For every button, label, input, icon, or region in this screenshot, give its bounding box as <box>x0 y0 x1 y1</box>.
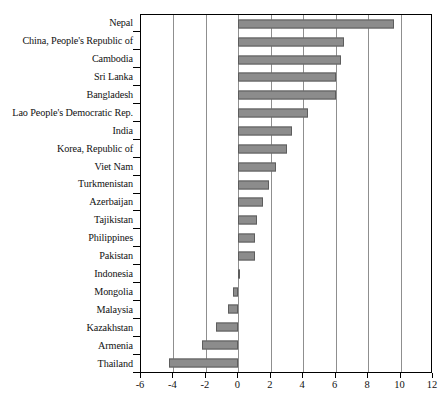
category-label: Korea, Republic of <box>0 140 137 158</box>
category-tick <box>133 86 140 104</box>
plot-area <box>140 14 432 373</box>
bar-row <box>141 193 431 211</box>
value-tick <box>172 373 173 378</box>
bar-row <box>141 336 431 354</box>
category-tick <box>133 68 140 86</box>
category-tick <box>133 104 140 122</box>
value-tick-label: 12 <box>427 379 438 390</box>
bars-layer <box>141 15 431 372</box>
category-label: Pakistan <box>0 247 137 265</box>
clipped-title-remnant <box>95 0 225 3</box>
bar-row <box>141 15 431 33</box>
bar <box>238 162 275 171</box>
value-tick <box>302 373 303 378</box>
category-label: Armenia <box>0 337 137 355</box>
value-tick-label: 4 <box>300 379 305 390</box>
bar <box>238 55 341 64</box>
value-tick-label: 6 <box>332 379 337 390</box>
bar-row <box>141 283 431 301</box>
category-tick <box>133 247 140 265</box>
value-tick-label: 0 <box>235 379 240 390</box>
bar-row <box>141 140 431 158</box>
category-tick-marks <box>133 14 140 373</box>
value-tick <box>237 373 238 378</box>
category-tick <box>133 50 140 68</box>
category-tick <box>133 14 140 32</box>
bar-row <box>141 158 431 176</box>
category-label: Philippines <box>0 229 137 247</box>
bar-row <box>141 51 431 69</box>
category-tick <box>133 176 140 194</box>
bar-row <box>141 176 431 194</box>
bar <box>238 198 263 207</box>
category-tick <box>133 265 140 283</box>
value-tick <box>205 373 206 378</box>
bar <box>228 305 239 314</box>
value-tick <box>335 373 336 378</box>
bar-row <box>141 229 431 247</box>
category-label: Azerbaijan <box>0 194 137 212</box>
category-label: Mongolia <box>0 283 137 301</box>
bar <box>238 73 335 82</box>
category-label: Cambodia <box>0 50 137 68</box>
bar-row <box>141 318 431 336</box>
value-tick <box>367 373 368 378</box>
category-label: Viet Nam <box>0 158 137 176</box>
category-axis-labels: NepalChina, People's Republic ofCambodia… <box>0 14 137 373</box>
bar <box>238 37 343 46</box>
category-label: Lao People's Democratic Rep. <box>0 104 137 122</box>
bar <box>202 341 239 350</box>
bar-row <box>141 265 431 283</box>
category-tick <box>133 337 140 355</box>
bar-row <box>141 211 431 229</box>
bar <box>238 251 255 260</box>
value-tick-label: 2 <box>267 379 272 390</box>
bar <box>238 180 269 189</box>
category-tick <box>133 319 140 337</box>
bar <box>238 109 308 118</box>
bar <box>238 234 254 243</box>
bar-row <box>141 301 431 319</box>
value-tick <box>140 373 141 378</box>
value-tick-label: 8 <box>364 379 369 390</box>
category-tick <box>133 140 140 158</box>
bar <box>238 91 336 100</box>
bar <box>238 144 287 153</box>
bar-row <box>141 122 431 140</box>
value-tick-label: -2 <box>201 379 210 390</box>
value-tick-label: 10 <box>394 379 405 390</box>
category-tick <box>133 122 140 140</box>
category-tick <box>133 283 140 301</box>
bar <box>238 216 257 225</box>
value-axis-tick-marks <box>140 373 432 378</box>
bar-row <box>141 69 431 87</box>
bar-row <box>141 354 431 372</box>
category-label: Malaysia <box>0 301 137 319</box>
category-label: Kazakhstan <box>0 319 137 337</box>
bar <box>233 287 239 296</box>
category-tick <box>133 211 140 229</box>
category-label: Turkmenistan <box>0 176 137 194</box>
category-tick <box>133 32 140 50</box>
category-tick <box>133 301 140 319</box>
bar-row <box>141 33 431 51</box>
value-tick <box>432 373 433 378</box>
bar <box>238 19 394 28</box>
bar-row <box>141 247 431 265</box>
bar <box>216 323 238 332</box>
category-label: Indonesia <box>0 265 137 283</box>
value-tick-label: -6 <box>136 379 145 390</box>
bar <box>238 269 240 278</box>
value-tick <box>400 373 401 378</box>
bar-row <box>141 104 431 122</box>
category-label: Nepal <box>0 14 137 32</box>
value-tick <box>270 373 271 378</box>
category-label: China, People's Republic of <box>0 32 137 50</box>
category-label: Bangladesh <box>0 86 137 104</box>
category-label: Tajikistan <box>0 211 137 229</box>
category-tick <box>133 355 140 373</box>
bar-row <box>141 86 431 104</box>
value-axis-tick-labels: -6-4-2024681012 <box>140 379 432 393</box>
category-label: Sri Lanka <box>0 68 137 86</box>
category-label: India <box>0 122 137 140</box>
